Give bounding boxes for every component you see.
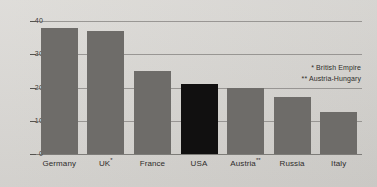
x-tick-label-austria: Austria** [222,159,269,168]
bar-usa [181,84,218,154]
footnote-marker: * [110,157,112,163]
bar-italy [320,112,357,154]
bar-austria [227,88,264,155]
gridline-0 [36,154,362,155]
bars-group [36,21,362,154]
bar-chart-figure: 010203040 GermanyUK*FranceUSAAustria**Ru… [0,0,377,187]
x-tick-label-uk: UK* [83,159,130,168]
bar-russia [274,97,311,154]
bar-uk [87,31,124,154]
scanned-page-background: 010203040 GermanyUK*FranceUSAAustria**Ru… [0,0,377,187]
bar-germany [41,28,78,154]
bar-france [134,71,171,154]
footnotes-block: * British Empire ** Austria-Hungary [302,62,361,84]
plot-area: 010203040 GermanyUK*FranceUSAAustria**Ru… [36,21,362,154]
x-tick-label-germany: Germany [36,159,83,168]
x-tick-label-italy: Italy [315,159,362,168]
y-tick-mark-0 [30,154,36,155]
footnote-marker: ** [256,157,261,163]
x-tick-label-russia: Russia [269,159,316,168]
x-tick-label-usa: USA [176,159,223,168]
x-tick-label-france: France [129,159,176,168]
footnote-austria-hungary: ** Austria-Hungary [302,73,361,84]
footnote-british-empire: * British Empire [302,62,361,73]
